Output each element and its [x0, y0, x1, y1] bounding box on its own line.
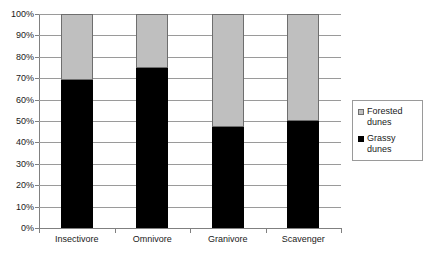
legend-entry[interactable]: Foresteddunes: [358, 106, 418, 128]
chart-legend: ForesteddunesGrassydunes: [352, 100, 423, 161]
bar-group[interactable]: [212, 14, 244, 228]
bar-segment-forested-dunes[interactable]: [287, 14, 319, 121]
bar-segment-forested-dunes[interactable]: [61, 14, 93, 80]
y-axis-tick-mark: [35, 207, 39, 208]
y-axis-tick-mark: [35, 35, 39, 36]
y-axis-tick-label: 20%: [0, 180, 34, 190]
stacked-bar-chart: 100%90%80%70%60%50%40%30%20%10%0% Forest…: [0, 0, 424, 253]
y-axis-tick-mark: [35, 121, 39, 122]
bar-group[interactable]: [61, 14, 93, 228]
y-axis-tick-label: 50%: [0, 116, 34, 126]
bar-segment-grassy-dunes[interactable]: [287, 121, 319, 228]
legend-label-line1: Forested: [367, 106, 403, 116]
y-axis-tick-mark: [35, 14, 39, 15]
bar-segment-forested-dunes[interactable]: [212, 14, 244, 127]
y-axis-tick-mark: [35, 185, 39, 186]
y-axis-tick-label: 60%: [0, 95, 34, 105]
bar-group[interactable]: [136, 14, 168, 228]
bar-segment-forested-dunes[interactable]: [136, 14, 168, 68]
y-axis-tick-label: 30%: [0, 159, 34, 169]
y-axis-tick-mark: [35, 164, 39, 165]
legend-label: Foresteddunes: [367, 106, 403, 128]
bar-segment-grassy-dunes[interactable]: [212, 127, 244, 228]
x-axis-category-label: Omnivore: [115, 234, 191, 245]
bar-group[interactable]: [287, 14, 319, 228]
x-axis-tick-mark: [190, 229, 191, 233]
legend-label: Grassydunes: [367, 133, 396, 155]
y-axis-tick-label: 90%: [0, 30, 34, 40]
legend-label-line2: dunes: [367, 144, 392, 154]
bar-segment-grassy-dunes[interactable]: [136, 68, 168, 229]
y-axis-tick-mark: [35, 57, 39, 58]
y-axis-tick-label: 80%: [0, 52, 34, 62]
y-axis-labels: 100%90%80%70%60%50%40%30%20%10%0%: [0, 14, 34, 228]
grassy-swatch: [358, 136, 364, 142]
x-axis-tick-mark: [115, 229, 116, 233]
x-axis-category-label: Scavenger: [266, 234, 342, 245]
y-axis-tick-mark: [35, 142, 39, 143]
y-axis-tick-label: 40%: [0, 137, 34, 147]
y-axis-tick-mark: [35, 78, 39, 79]
x-axis-tick-mark: [266, 229, 267, 233]
legend-label-line2: dunes: [367, 117, 392, 127]
forested-swatch: [358, 109, 364, 115]
bar-segment-grassy-dunes[interactable]: [61, 80, 93, 228]
y-axis-tick-label: 100%: [0, 9, 34, 19]
y-axis-tick-label: 0%: [0, 223, 34, 233]
legend-entry[interactable]: Grassydunes: [358, 133, 418, 155]
x-axis-category-label: Insectivore: [39, 234, 115, 245]
legend-label-line1: Grassy: [367, 133, 396, 143]
x-axis-category-label: Granivore: [190, 234, 266, 245]
x-axis-tick-mark: [39, 229, 40, 233]
x-axis-tick-mark: [341, 229, 342, 233]
y-axis-tick-mark: [35, 100, 39, 101]
y-axis-tick-label: 70%: [0, 73, 34, 83]
plot-area: [39, 14, 341, 228]
y-axis-tick-label: 10%: [0, 202, 34, 212]
